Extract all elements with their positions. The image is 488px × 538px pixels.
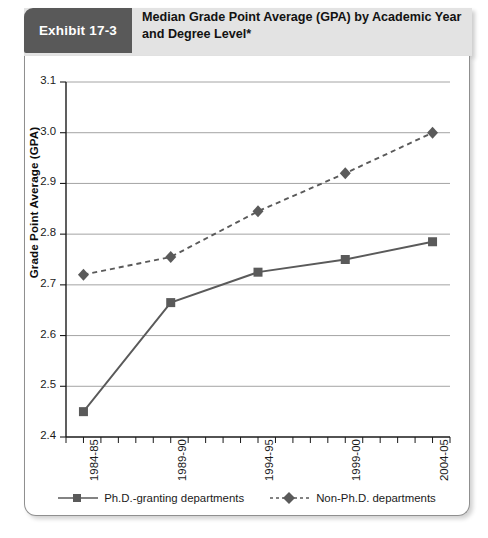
legend-item-phd: Ph.D.-granting departments — [58, 492, 244, 504]
chart-panel — [24, 56, 470, 516]
exhibit-title-line-1: Median Grade Point Average (GPA) by Acad… — [142, 9, 468, 26]
square-marker-icon — [58, 492, 98, 504]
chart-legend: Ph.D.-granting departments Non-Ph.D. dep… — [24, 492, 470, 504]
exhibit-title: Median Grade Point Average (GPA) by Acad… — [142, 9, 468, 42]
legend-label-phd: Ph.D.-granting departments — [104, 492, 244, 504]
legend-item-nonphd: Non-Ph.D. departments — [270, 492, 436, 504]
exhibit-badge: Exhibit 17-3 — [24, 8, 132, 53]
diamond-marker-icon — [270, 492, 310, 504]
exhibit-badge-label: Exhibit 17-3 — [39, 23, 117, 38]
exhibit-title-line-2: and Degree Level* — [142, 26, 468, 43]
legend-label-nonphd: Non-Ph.D. departments — [316, 492, 436, 504]
exhibit-figure: Exhibit 17-3 Median Grade Point Average … — [0, 0, 488, 538]
